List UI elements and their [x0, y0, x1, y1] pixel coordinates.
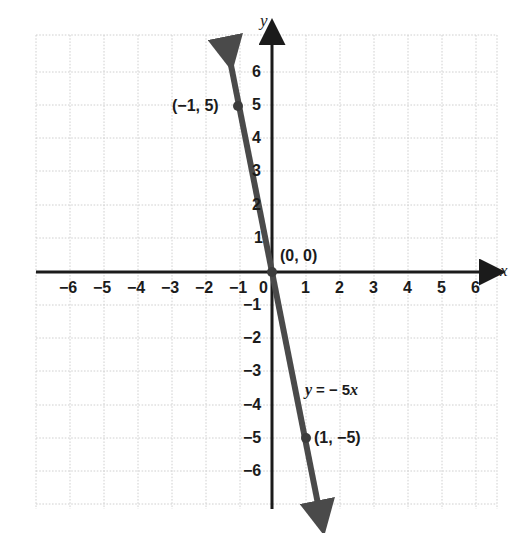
y-tick-minus1: −1 — [243, 297, 261, 313]
x-tick-5: 5 — [437, 280, 446, 296]
y-tick-minus4: −4 — [243, 397, 261, 413]
x-tick-3: 3 — [369, 280, 378, 296]
data-point-1-minus5 — [301, 433, 311, 443]
x-tick-minus2: −2 — [195, 280, 213, 296]
equation-equals: = — [316, 381, 325, 398]
y-tick-4: 4 — [252, 130, 261, 146]
coordinate-plane-svg — [0, 0, 528, 533]
y-tick-3: 3 — [252, 163, 261, 179]
x-tick-2: 2 — [335, 280, 344, 296]
x-tick-minus6: −6 — [59, 280, 77, 296]
x-tick-6: 6 — [471, 280, 480, 296]
y-tick-minus5: −5 — [243, 430, 261, 446]
data-point-minus1-5 — [233, 101, 243, 111]
y-tick-1: 1 — [254, 230, 263, 246]
x-tick-minus4: −4 — [127, 280, 145, 296]
data-point-0-0 — [267, 267, 277, 277]
x-tick-0: 0 — [259, 280, 268, 296]
point-label-0-0: (0, 0) — [280, 248, 317, 264]
equation-variable: x — [350, 381, 358, 398]
point-label-1-minus5: (1, −5) — [314, 430, 361, 446]
y-tick-minus2: −2 — [243, 330, 261, 346]
equation-annotation: y=−5x — [305, 382, 358, 398]
y-tick-5: 5 — [252, 97, 261, 113]
y-tick-6: 6 — [252, 64, 261, 80]
x-tick-minus3: −3 — [161, 280, 179, 296]
y-tick-minus3: −3 — [243, 363, 261, 379]
y-tick-minus6: −6 — [243, 463, 261, 479]
point-label-minus1-5: (−1, 5) — [172, 98, 219, 114]
x-tick-1: 1 — [301, 280, 310, 296]
graph-canvas: y x −6 −5 −4 −3 −2 −1 0 1 2 3 4 5 6 6 5 … — [0, 0, 528, 533]
equation-coefficient: 5 — [342, 381, 350, 398]
x-axis-label: x — [500, 262, 508, 279]
equation-lhs: y — [305, 381, 312, 398]
x-tick-minus5: −5 — [93, 280, 111, 296]
x-tick-4: 4 — [403, 280, 412, 296]
y-tick-2: 2 — [252, 197, 261, 213]
x-tick-minus1: −1 — [229, 280, 247, 296]
equation-sign: − — [329, 381, 338, 398]
y-axis-label: y — [260, 12, 268, 29]
